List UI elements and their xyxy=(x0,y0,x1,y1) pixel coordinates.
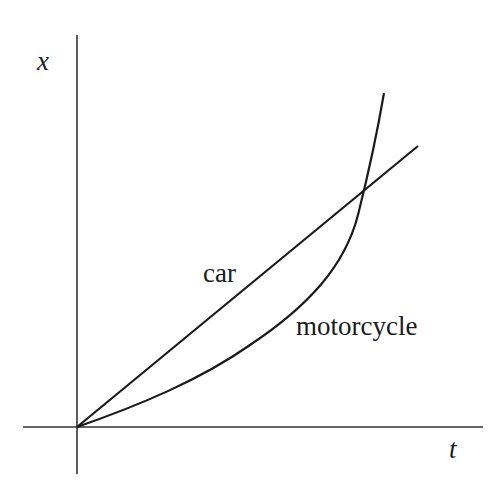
x-axis-label: t xyxy=(449,436,457,463)
position-time-graph xyxy=(0,0,499,493)
y-axis-label: x xyxy=(37,48,49,75)
motorcycle-label: motorcycle xyxy=(296,313,417,340)
car-label: car xyxy=(203,260,236,287)
car-line xyxy=(77,146,418,427)
